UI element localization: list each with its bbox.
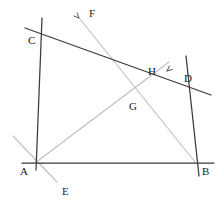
segment-line-C-to-D <box>25 28 211 95</box>
geometry-canvas <box>0 0 222 208</box>
geometry-figure: A B C D E F G H <box>0 0 222 208</box>
point-label-F: F <box>89 8 95 19</box>
light-construction-lines <box>13 19 195 182</box>
arrowhead-near-H <box>166 66 173 73</box>
point-label-D: D <box>184 73 192 84</box>
dark-figure-lines <box>22 18 214 176</box>
point-label-H: H <box>148 66 156 77</box>
point-label-A: A <box>20 166 28 177</box>
arrowhead-near-F <box>74 13 81 20</box>
point-label-B: B <box>202 166 209 177</box>
point-label-C: C <box>28 35 35 46</box>
segment-vertical-through-C <box>36 18 42 170</box>
segment-ray-A-to-H <box>35 62 169 163</box>
segment-ray-F-to-B <box>80 19 195 162</box>
point-label-G: G <box>129 101 137 112</box>
point-label-E: E <box>62 186 69 197</box>
